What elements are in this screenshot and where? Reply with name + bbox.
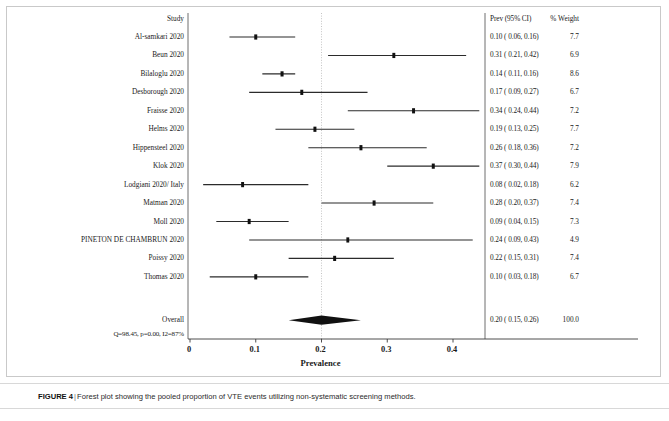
study-weight: 7.7	[7, 33, 579, 40]
column-header-weight: % Weight	[7, 15, 579, 22]
study-weight: 7.4	[7, 199, 579, 206]
x-axis-tick-label: 0	[187, 345, 191, 354]
study-weight: 8.6	[7, 70, 579, 77]
x-axis-tick-label: 0.1	[250, 345, 260, 354]
figure-caption-bar: FIGURE 4|Forest plot showing the pooled …	[0, 383, 669, 409]
study-weight: 7.9	[7, 162, 579, 169]
figure-panel: StudyPrev (95% CI)% WeightAl-samkari 202…	[6, 6, 661, 377]
overall-weight: 100.0	[7, 317, 579, 324]
study-weight: 6.9	[7, 52, 579, 59]
study-weight: 4.9	[7, 236, 579, 243]
x-axis-tick-label: 0.4	[447, 345, 457, 354]
caption-body: Forest plot showing the pooled proportio…	[77, 392, 416, 401]
study-weight: 7.2	[7, 107, 579, 114]
study-weight: 6.2	[7, 181, 579, 188]
figure-number: FIGURE 4	[38, 392, 73, 401]
study-weight: 6.7	[7, 89, 579, 96]
study-weight: 6.7	[7, 273, 579, 280]
forest-plot: StudyPrev (95% CI)% WeightAl-samkari 202…	[7, 7, 660, 376]
study-weight: 7.7	[7, 126, 579, 133]
study-weight: 7.2	[7, 144, 579, 151]
figure-caption: FIGURE 4|Forest plot showing the pooled …	[38, 392, 416, 401]
x-axis-title: Prevalence	[301, 358, 341, 368]
x-axis-tick-label: 0.3	[381, 345, 391, 354]
heterogeneity-statistics: Q=98.45, p=0.00, I2=87%	[7, 331, 184, 338]
study-weight: 7.3	[7, 218, 579, 225]
study-weight: 7.4	[7, 255, 579, 262]
x-axis-tick-label: 0.2	[315, 345, 325, 354]
